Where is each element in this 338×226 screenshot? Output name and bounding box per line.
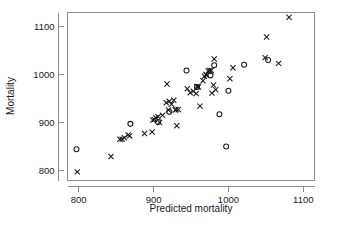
- data-point-o: [224, 144, 229, 149]
- data-point-x: [227, 76, 232, 81]
- data-point-o: [128, 121, 133, 126]
- data-point-x: [164, 81, 169, 86]
- data-point-x: [230, 65, 235, 70]
- plot-frame: [68, 13, 315, 181]
- data-point-x: [194, 91, 199, 96]
- data-point-x: [142, 131, 147, 136]
- axis-tick-labels: 8009001000110080090010001100: [33, 21, 313, 204]
- data-point-o: [266, 58, 271, 63]
- data-point-x: [75, 169, 80, 174]
- data-point-x: [276, 61, 281, 66]
- data-point-o: [217, 112, 222, 117]
- data-point-x: [185, 86, 190, 91]
- y-tick-label: 800: [39, 165, 55, 176]
- y-tick-label: 1100: [34, 21, 54, 32]
- data-point-x: [160, 113, 165, 118]
- data-points: [74, 15, 292, 175]
- data-point-x: [264, 34, 269, 39]
- data-point-x: [197, 104, 202, 109]
- scatter-plot-figure: 8009001000110080090010001100 Predicted m…: [0, 0, 338, 226]
- data-point-o: [226, 88, 231, 93]
- data-point-o: [212, 63, 217, 68]
- x-axis-title: Predicted mortality: [150, 203, 233, 214]
- y-tick-label: 1000: [33, 69, 54, 80]
- data-point-x: [286, 15, 291, 20]
- data-point-o: [242, 62, 247, 67]
- y-tick-label: 900: [39, 117, 55, 128]
- data-point-o: [74, 147, 79, 152]
- y-axis-title: Mortality: [5, 77, 16, 115]
- data-point-x: [211, 82, 216, 87]
- data-point-x: [213, 87, 218, 92]
- data-point-x: [200, 78, 205, 83]
- x-tick-label: 800: [71, 194, 87, 205]
- data-point-x: [122, 135, 127, 140]
- data-point-x: [108, 154, 113, 159]
- data-point-o: [184, 68, 189, 73]
- data-point-x: [212, 56, 217, 61]
- data-point-x: [149, 129, 154, 134]
- axis-ticks: [59, 13, 315, 192]
- axes: [68, 13, 315, 181]
- plot-canvas: 8009001000110080090010001100 Predicted m…: [0, 0, 338, 226]
- data-point-x: [174, 123, 179, 128]
- x-tick-label: 1100: [293, 194, 313, 205]
